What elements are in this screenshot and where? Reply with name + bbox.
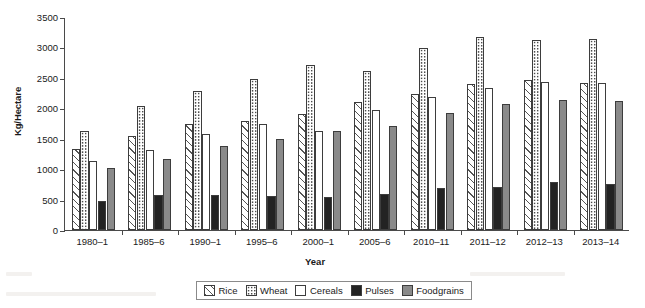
bar-wheat — [306, 65, 314, 230]
legend-item-wheat[interactable]: Wheat — [246, 285, 288, 296]
bar-wheat — [532, 40, 540, 230]
x-axis-tick-label: 1990–1 — [189, 236, 221, 247]
x-axis-tick-label: 2005–6 — [359, 236, 391, 247]
legend-label: Wheat — [260, 285, 287, 296]
bar-cereals — [259, 124, 267, 230]
legend-item-pulses[interactable]: Pulses — [351, 285, 394, 296]
bar-group — [411, 18, 454, 230]
x-axis-tick — [461, 230, 462, 235]
bar-rice — [298, 114, 306, 230]
y-axis-tick-label: 2500 — [14, 74, 58, 84]
bar-foodgrains — [389, 126, 397, 230]
bar-pulses — [550, 182, 558, 230]
y-axis-tick — [60, 18, 65, 19]
bar-pulses — [267, 196, 275, 230]
y-axis-tick-label: 3000 — [14, 44, 58, 54]
bar-wheat — [80, 131, 88, 230]
bar-group — [524, 18, 567, 230]
bar-cereals — [485, 88, 493, 230]
bar-foodgrains — [446, 113, 454, 230]
scan-artifact — [6, 292, 156, 296]
bar-wheat — [589, 39, 597, 230]
bar-rice — [467, 84, 475, 230]
bar-pulses — [211, 195, 219, 230]
bar-foodgrains — [333, 131, 341, 230]
bar-group — [72, 18, 115, 230]
x-axis-tick-label: 2011–12 — [470, 236, 506, 247]
scan-artifact — [470, 272, 565, 276]
bar-group — [467, 18, 510, 230]
x-axis-tick-label: 1985–6 — [133, 236, 165, 247]
bar-cereals — [146, 150, 154, 230]
bar-rice — [72, 149, 80, 230]
y-axis-tick-label: 3500 — [14, 13, 58, 23]
x-axis-tick — [517, 230, 518, 235]
x-axis-tick — [404, 230, 405, 235]
legend-item-rice[interactable]: Rice — [204, 285, 238, 296]
legend-item-foodgrains[interactable]: Foodgrains — [402, 285, 464, 296]
y-axis-tick-label: 0 — [14, 226, 58, 236]
x-axis-tick-label: 1980–1 — [76, 236, 108, 247]
bar-wheat — [476, 37, 484, 230]
legend-swatch-icon — [351, 285, 362, 296]
x-axis-tick-label: 2013–14 — [582, 236, 619, 247]
x-axis-tick — [348, 230, 349, 235]
bar-rice — [580, 83, 588, 230]
bar-group — [185, 18, 228, 230]
bar-foodgrains — [615, 101, 623, 230]
bar-group — [580, 18, 623, 230]
bar-group — [298, 18, 341, 230]
bar-foodgrains — [276, 139, 284, 230]
bar-foodgrains — [163, 159, 171, 231]
bar-wheat — [419, 48, 427, 230]
bar-pulses — [493, 187, 501, 230]
bar-wheat — [193, 91, 201, 230]
bar-cereals — [89, 161, 97, 230]
bar-cereals — [315, 131, 323, 230]
bar-rice — [128, 136, 136, 230]
x-axis-tick-label: 2010–11 — [413, 236, 449, 247]
bar-wheat — [137, 106, 145, 231]
legend-swatch-icon — [295, 285, 306, 296]
bar-foodgrains — [107, 168, 115, 230]
bar-foodgrains — [502, 104, 510, 230]
x-axis-title: Year — [305, 256, 325, 267]
bar-group — [241, 18, 284, 230]
bar-group — [128, 18, 171, 230]
y-axis-tick — [60, 48, 65, 49]
plot-area: 0500100015002000250030003500 — [64, 18, 629, 231]
bar-rice — [241, 121, 249, 230]
bar-cereals — [372, 110, 380, 230]
bar-rice — [524, 80, 532, 230]
bar-cereals — [598, 83, 606, 230]
legend-label: Foodgrains — [416, 285, 464, 296]
y-axis-tick — [60, 109, 65, 110]
legend-label: Rice — [219, 285, 238, 296]
x-axis-tick — [291, 230, 292, 235]
x-axis-tick — [574, 230, 575, 235]
x-axis-tick-label: 1995–6 — [246, 236, 278, 247]
bar-cereals — [202, 134, 210, 230]
bar-pulses — [606, 184, 614, 230]
bar-rice — [185, 124, 193, 230]
bar-rice — [354, 102, 362, 230]
y-axis-tick-label: 1500 — [14, 135, 58, 145]
legend-swatch-icon — [246, 285, 257, 296]
bar-foodgrains — [559, 100, 567, 230]
bar-wheat — [363, 71, 371, 230]
bar-cereals — [541, 82, 549, 230]
legend-item-cereals[interactable]: Cereals — [295, 285, 342, 296]
x-axis-tick — [235, 230, 236, 235]
bar-foodgrains — [220, 146, 228, 230]
bar-cereals — [428, 97, 436, 230]
y-axis-tick — [60, 79, 65, 80]
y-axis-tick — [60, 231, 65, 232]
bar-rice — [411, 94, 419, 230]
legend-label: Cereals — [310, 285, 343, 296]
legend-swatch-icon — [402, 285, 413, 296]
bar-group — [354, 18, 397, 230]
bar-pulses — [324, 197, 332, 230]
bar-pulses — [98, 201, 106, 230]
y-axis-tick-label: 1000 — [14, 165, 58, 175]
bar-chart: Kg/Hectare 0500100015002000250030003500 … — [0, 0, 645, 308]
